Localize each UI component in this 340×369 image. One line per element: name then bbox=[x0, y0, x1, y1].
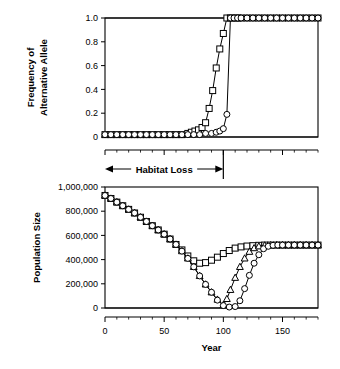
y-tick-label: 0 bbox=[93, 303, 98, 313]
data-point-circle bbox=[173, 132, 179, 138]
y-tick-label: 200,000 bbox=[65, 279, 98, 289]
y-tick-label: 1,000,000 bbox=[58, 182, 98, 192]
series-circle-series bbox=[102, 192, 321, 310]
chart-panel-top: 00.20.40.60.81.0Frequency ofAlternative … bbox=[25, 13, 321, 179]
data-point-circle bbox=[179, 132, 185, 138]
data-point-circle bbox=[155, 227, 161, 233]
y-axis-title-line2: Alternative Allele bbox=[38, 39, 49, 116]
data-point-square bbox=[238, 244, 244, 250]
data-point-circle bbox=[167, 132, 173, 138]
data-point-triangle bbox=[223, 295, 230, 301]
data-point-circle bbox=[291, 242, 297, 248]
data-point-circle bbox=[102, 192, 108, 198]
y-tick-label: 0 bbox=[93, 132, 98, 142]
data-point-circle bbox=[179, 248, 185, 254]
data-point-circle bbox=[220, 126, 226, 132]
data-point-square bbox=[210, 88, 216, 94]
data-point-square bbox=[220, 251, 226, 257]
data-point-square bbox=[214, 254, 220, 260]
data-point-circle bbox=[303, 242, 309, 248]
data-point-circle bbox=[155, 132, 161, 138]
data-point-circle bbox=[246, 272, 252, 278]
figure-container: 00.20.40.60.81.0Frequency ofAlternative … bbox=[0, 0, 340, 369]
annotation-arrowhead-left bbox=[105, 165, 113, 172]
data-point-triangle bbox=[232, 274, 239, 280]
data-point-circle bbox=[268, 15, 274, 21]
data-point-circle bbox=[303, 15, 309, 21]
series-circle-series bbox=[102, 15, 321, 138]
data-point-circle bbox=[114, 199, 120, 205]
data-point-circle bbox=[242, 286, 248, 292]
data-point-circle bbox=[185, 132, 191, 138]
data-point-square bbox=[206, 105, 212, 111]
x-tick-label: 50 bbox=[159, 326, 169, 336]
data-point-circle bbox=[309, 15, 315, 21]
series-line-square bbox=[105, 195, 318, 263]
data-point-circle bbox=[280, 15, 286, 21]
series-square-series bbox=[102, 192, 321, 266]
y-tick-label: 600,000 bbox=[65, 231, 98, 241]
data-point-circle bbox=[108, 195, 114, 201]
data-point-circle bbox=[185, 255, 191, 261]
x-tick-label: 100 bbox=[216, 326, 231, 336]
data-point-circle bbox=[120, 203, 126, 209]
data-point-circle bbox=[226, 304, 232, 310]
data-point-circle bbox=[280, 242, 286, 248]
data-point-square bbox=[203, 120, 209, 126]
data-point-circle bbox=[297, 15, 303, 21]
data-point-circle bbox=[274, 15, 280, 21]
data-point-circle bbox=[238, 15, 244, 21]
data-point-square bbox=[209, 257, 215, 263]
data-point-circle bbox=[203, 281, 209, 287]
y-tick-label: 1.0 bbox=[85, 13, 98, 23]
data-point-circle bbox=[197, 132, 203, 138]
data-point-square bbox=[203, 260, 209, 266]
data-point-circle bbox=[143, 218, 149, 224]
series-square-series bbox=[102, 15, 321, 138]
y-tick-label: 0.6 bbox=[85, 61, 98, 71]
data-point-circle bbox=[114, 132, 120, 138]
data-point-circle bbox=[191, 264, 197, 270]
data-point-triangle bbox=[227, 286, 234, 292]
y-axis-title-line1: Frequency of bbox=[25, 47, 36, 107]
data-point-circle bbox=[232, 304, 238, 310]
data-point-square bbox=[220, 30, 226, 36]
data-point-circle bbox=[203, 130, 209, 136]
data-point-circle bbox=[173, 241, 179, 247]
data-point-circle bbox=[138, 214, 144, 220]
annotation-habitat-loss-label: Habitat Loss bbox=[136, 164, 193, 175]
data-point-circle bbox=[256, 15, 262, 21]
data-point-square bbox=[226, 248, 232, 254]
y-tick-label: 0.4 bbox=[85, 85, 98, 95]
data-point-square bbox=[197, 260, 203, 266]
data-point-circle bbox=[244, 15, 250, 21]
data-point-circle bbox=[309, 242, 315, 248]
data-point-circle bbox=[291, 15, 297, 21]
annotation-habitat-loss: Habitat Loss bbox=[105, 162, 223, 175]
y-axis-title: Population Size bbox=[31, 212, 42, 283]
data-point-circle bbox=[149, 223, 155, 229]
data-point-circle bbox=[197, 273, 203, 279]
y-tick-label: 0.8 bbox=[85, 37, 98, 47]
data-point-circle bbox=[256, 252, 262, 258]
data-point-circle bbox=[297, 242, 303, 248]
data-point-circle bbox=[191, 132, 197, 138]
data-point-square bbox=[232, 245, 238, 251]
data-point-circle bbox=[209, 289, 215, 295]
data-point-circle bbox=[108, 132, 114, 138]
data-point-circle bbox=[220, 303, 226, 309]
y-tick-label: 400,000 bbox=[65, 255, 98, 265]
series-line-square bbox=[105, 18, 318, 135]
data-point-square bbox=[217, 46, 223, 52]
chart-panel-bottom: 0200,000400,000600,000800,0001,000,00005… bbox=[31, 182, 321, 353]
data-point-circle bbox=[161, 132, 167, 138]
data-point-circle bbox=[138, 132, 144, 138]
figure-svg: 00.20.40.60.81.0Frequency ofAlternative … bbox=[0, 0, 340, 369]
data-point-circle bbox=[132, 210, 138, 216]
data-point-circle bbox=[143, 132, 149, 138]
data-point-circle bbox=[120, 132, 126, 138]
y-tick-label: 800,000 bbox=[65, 206, 98, 216]
x-tick-label: 150 bbox=[275, 326, 290, 336]
data-point-circle bbox=[126, 206, 132, 212]
annotation-arrowhead-right bbox=[215, 165, 223, 172]
